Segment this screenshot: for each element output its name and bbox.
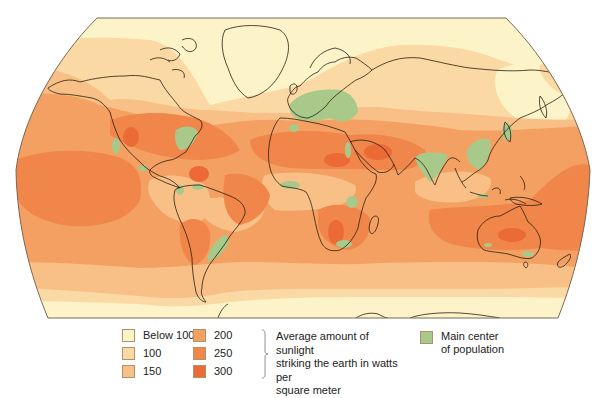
legend-item-100: 100	[122, 345, 194, 361]
legend-description: Average amount of sunlight striking the …	[276, 330, 406, 398]
legend-swatch-300	[193, 365, 206, 378]
zone-300-australia	[498, 228, 526, 242]
zone-250-pacific-west	[16, 151, 141, 226]
population-nile	[345, 142, 351, 158]
legend-swatch-200	[193, 329, 206, 342]
legend-description-line-2: striking the earth in watts per	[276, 357, 406, 384]
legend-column-low: Below 100 100 150	[122, 327, 194, 381]
legend-item-200: 200	[193, 327, 232, 343]
legend-brace	[262, 329, 268, 379]
legend-item-150: 150	[122, 363, 194, 379]
legend-column-high: 200 250 300	[193, 327, 232, 381]
map-legend: Below 100 100 150 200 250 300 Average am…	[0, 327, 604, 386]
legend-description-line-1: Average amount of sunlight	[276, 330, 406, 357]
zone-300-caribbean	[189, 166, 209, 182]
population-south-africa	[336, 240, 352, 248]
legend-swatch-150	[122, 365, 135, 378]
population-sw-australia	[484, 243, 492, 247]
legend-item-300: 300	[193, 363, 232, 379]
population-iberia	[289, 124, 299, 132]
legend-label: 250	[214, 347, 232, 360]
legend-item-population: Main center of population	[420, 330, 504, 356]
zone-300-arabia	[364, 144, 392, 160]
legend-item-250: 250	[193, 345, 232, 361]
population-se-australia	[522, 251, 534, 257]
legend-swatch-250	[193, 347, 206, 360]
legend-swatch-population	[420, 331, 433, 344]
legend-item-below-100: Below 100	[122, 327, 194, 343]
world-sunlight-map	[0, 0, 604, 322]
legend-description-line-3: square meter	[276, 384, 406, 398]
legend-population-line-2: of population	[441, 343, 504, 356]
legend-label: 300	[214, 365, 232, 378]
legend-population-line-1: Main center	[441, 330, 504, 343]
legend-label: 150	[143, 365, 161, 378]
legend-label: 100	[143, 347, 161, 360]
population-east-africa	[346, 196, 358, 208]
population-us-west	[112, 138, 120, 154]
zone-300-mexico	[123, 127, 139, 147]
sunlight-zones	[0, 0, 604, 322]
legend-swatch-100	[122, 347, 135, 360]
legend-label: Below 100	[143, 329, 194, 342]
legend-label: 200	[214, 329, 232, 342]
legend-swatch-below-100	[122, 329, 135, 342]
legend-population-label: Main center of population	[441, 330, 504, 356]
